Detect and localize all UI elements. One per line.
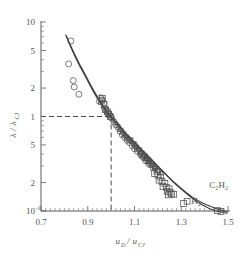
x-axis-title: uD/uCJ: [116, 236, 146, 248]
y-tick-label: 5: [31, 46, 36, 56]
marker-circle: [66, 61, 72, 67]
x-tick-label: 1.1: [129, 217, 140, 227]
marker-square: [181, 201, 187, 207]
x-tick-label: 1.3: [176, 217, 188, 227]
reference-lines-layer: [41, 117, 111, 212]
x-axis-title-u2: u: [133, 236, 138, 246]
figure-container: 105215210-10.70.91.11.31.5 uD/uCJλ/λCJ C…: [0, 0, 252, 259]
y-tick-label: 5: [31, 140, 36, 150]
y-axis-title: λ/λCJ: [8, 112, 20, 138]
marker-circle: [70, 78, 76, 84]
annotation-c2h2: C₂H₂: [209, 180, 228, 190]
annotations-layer: C₂H₂H₂: [184, 180, 228, 206]
y-tick-label: 1: [31, 112, 36, 122]
y-tick-label-exponent: -1: [36, 205, 41, 211]
model-curve: [66, 35, 228, 212]
annotation-h2-label: H₂: [191, 196, 201, 206]
model-curves-layer: [66, 35, 228, 213]
x-tick-label: 1.5: [222, 217, 234, 227]
model-curve: [66, 36, 227, 213]
x-axis-title-slash: /: [126, 236, 131, 246]
data-markers-layer: [66, 38, 224, 214]
x-axis-title-u1: u: [116, 236, 121, 246]
y-tick-label: 2: [31, 83, 36, 93]
y-tick-label: 2: [31, 178, 36, 188]
y-tick-label: 10: [26, 17, 36, 27]
chart-canvas: 105215210-10.70.91.11.31.5 uD/uCJλ/λCJ C…: [0, 0, 252, 259]
marker-circle: [71, 84, 77, 90]
y-axis-title-lambda1: λ: [8, 134, 18, 139]
annotation-c2h2-label: C₂H₂: [209, 180, 228, 190]
marker-circle: [76, 91, 82, 97]
y-axis-title-sub-CJ: CJ: [14, 112, 20, 119]
y-tick-label: 10: [26, 206, 36, 216]
x-tick-label: 0.9: [82, 217, 94, 227]
y-axis-title-slash: /: [8, 127, 18, 132]
x-axis-title-sub-D: D: [120, 242, 126, 248]
annotation-h2-square-icon: [184, 198, 190, 204]
x-axis-title-sub-CJ: CJ: [138, 242, 145, 248]
marker-group: [116, 124, 152, 164]
x-tick-label: 0.7: [35, 217, 47, 227]
y-axis-title-lambda2: λ: [8, 122, 18, 127]
marker-group: [98, 96, 223, 215]
tick-labels-layer: 105215210-10.70.91.11.31.5: [26, 17, 234, 227]
